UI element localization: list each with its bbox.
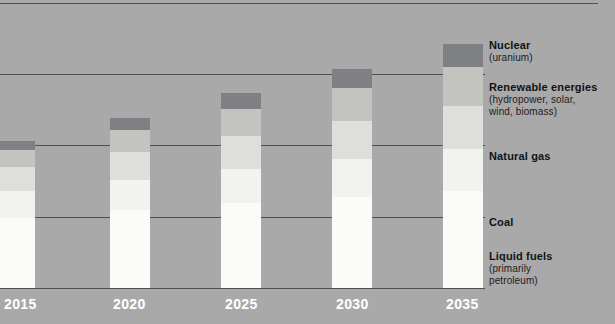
bar-segment-coal — [110, 180, 150, 210]
legend-item-renewable-energies: Renewable energies (hydropower, solar, w… — [489, 80, 597, 118]
bar-segment-natural-gas — [443, 106, 483, 149]
bar-segment-renewables — [221, 109, 261, 136]
legend-label-nuclear: Nuclear — [489, 38, 533, 52]
bar-segment-natural-gas — [332, 121, 372, 159]
bar-segment-renewables — [332, 88, 372, 121]
x-axis-label-2030: 2030 — [336, 296, 369, 312]
gridline-2 — [0, 74, 485, 75]
bar-segment-coal — [0, 191, 35, 218]
legend-sublabel-liquid-fuels-line1: (primarily — [489, 263, 553, 275]
legend-item-coal: Coal — [489, 215, 513, 229]
bar-segment-liquid-fuels — [110, 210, 150, 288]
x-axis-label-2035: 2035 — [446, 296, 479, 312]
legend-label-liquid-fuels: Liquid fuels — [489, 249, 553, 263]
gridline-1 — [0, 3, 598, 4]
bar-segment-liquid-fuels — [0, 218, 35, 288]
bar-segment-coal — [443, 149, 483, 191]
legend-item-liquid-fuels: Liquid fuels (primarily petroleum) — [489, 249, 553, 287]
legend-label-natural-gas: Natural gas — [489, 149, 551, 163]
bar-segment-natural-gas — [0, 167, 35, 191]
bar-segment-nuclear — [0, 141, 35, 150]
legend-sublabel-liquid-fuels-line2: petroleum) — [489, 275, 553, 287]
legend-label-renewable-energies: Renewable energies — [489, 80, 597, 94]
bar-segment-renewables — [110, 130, 150, 152]
x-axis-label-2025: 2025 — [225, 296, 258, 312]
legend-sublabel-nuclear: (uranium) — [489, 52, 533, 64]
bar-segment-liquid-fuels — [332, 197, 372, 288]
bar-2020 — [110, 118, 150, 288]
bar-segment-renewables — [0, 150, 35, 167]
bar-segment-nuclear — [221, 93, 261, 109]
x-axis-label-2015: 2015 — [4, 296, 37, 312]
gridline-5 — [0, 288, 485, 289]
bar-2015 — [0, 141, 35, 288]
x-axis-label-2020: 2020 — [113, 296, 146, 312]
bar-segment-natural-gas — [110, 152, 150, 180]
bar-segment-coal — [332, 159, 372, 197]
legend-label-coal: Coal — [489, 215, 513, 229]
bar-segment-nuclear — [332, 69, 372, 88]
bar-segment-nuclear — [110, 118, 150, 130]
bar-segment-renewables — [443, 67, 483, 106]
bar-segment-natural-gas — [221, 136, 261, 169]
bar-2025 — [221, 93, 261, 288]
bar-segment-liquid-fuels — [221, 203, 261, 288]
bar-2035 — [443, 44, 483, 288]
legend-sublabel-renewable-energies-line2: wind, biomass) — [489, 106, 597, 118]
stacked-bar-chart: 2015 2020 2025 2030 2035 Nuclear (uraniu… — [0, 0, 615, 324]
bar-segment-liquid-fuels — [443, 191, 483, 288]
legend-sublabel-renewable-energies-line1: (hydropower, solar, — [489, 94, 597, 106]
bar-segment-nuclear — [443, 44, 483, 67]
legend-item-nuclear: Nuclear (uranium) — [489, 38, 533, 64]
bar-segment-coal — [221, 169, 261, 203]
legend-item-natural-gas: Natural gas — [489, 149, 551, 163]
bar-2030 — [332, 69, 372, 288]
